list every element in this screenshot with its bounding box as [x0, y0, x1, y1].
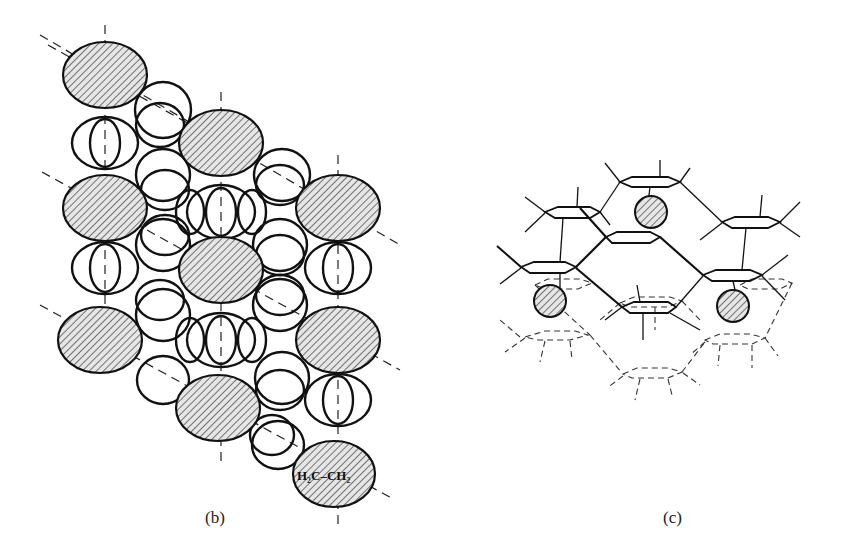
hatched-guest-spheres: [534, 196, 749, 322]
panel-c-layer-diagram: [0, 0, 843, 552]
figure: H₂C–CH₂ (b): [0, 0, 843, 552]
caption-c: (c): [663, 508, 682, 528]
